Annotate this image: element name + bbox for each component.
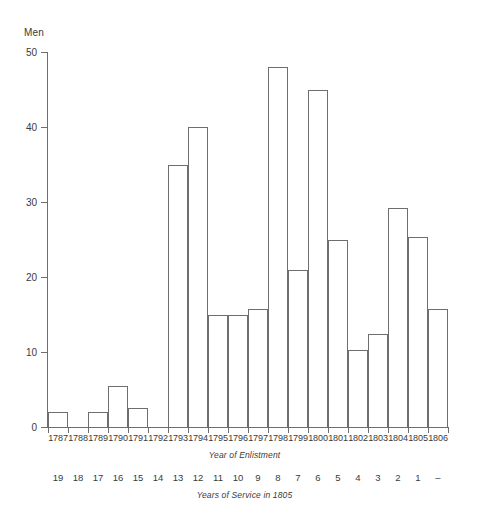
x-axis-title-secondary: Years of Service in 1805 xyxy=(0,490,489,500)
bar xyxy=(228,315,248,428)
y-tick-label: 20 xyxy=(26,272,37,283)
bar xyxy=(268,67,288,427)
bar xyxy=(48,412,68,427)
y-tick-label: 10 xyxy=(26,347,37,358)
x-tick-label: 1806 xyxy=(423,433,453,443)
plot-area: 01020304050 xyxy=(48,52,448,427)
bar xyxy=(368,334,388,427)
bar xyxy=(248,309,268,428)
bar xyxy=(128,408,148,427)
y-tick-label: 0 xyxy=(31,422,37,433)
bar xyxy=(188,127,208,427)
y-axis-title: Men xyxy=(24,27,44,38)
bar xyxy=(168,165,188,428)
y-tick-mark xyxy=(41,52,48,53)
bar xyxy=(208,315,228,428)
bar xyxy=(428,309,448,428)
y-tick-mark xyxy=(41,202,48,203)
y-tick-mark xyxy=(41,352,48,353)
y-tick-label: 40 xyxy=(26,122,37,133)
bar-chart: Men 01020304050 178717881789179017911792… xyxy=(0,0,489,519)
x-axis-title: Year of Enlistment xyxy=(0,450,489,460)
bar xyxy=(408,237,428,427)
y-tick-mark xyxy=(41,427,48,428)
bar xyxy=(308,90,328,428)
bar xyxy=(108,386,128,427)
y-tick-mark xyxy=(41,127,48,128)
bar xyxy=(348,350,368,427)
y-axis-line xyxy=(47,52,48,427)
y-tick-label: 50 xyxy=(26,47,37,58)
bar xyxy=(388,208,408,427)
bar xyxy=(288,270,308,428)
y-tick-mark xyxy=(41,277,48,278)
bar xyxy=(328,240,348,428)
y-tick-label: 30 xyxy=(26,197,37,208)
bar xyxy=(88,412,108,427)
x-tick-label-secondary: – xyxy=(423,472,453,483)
